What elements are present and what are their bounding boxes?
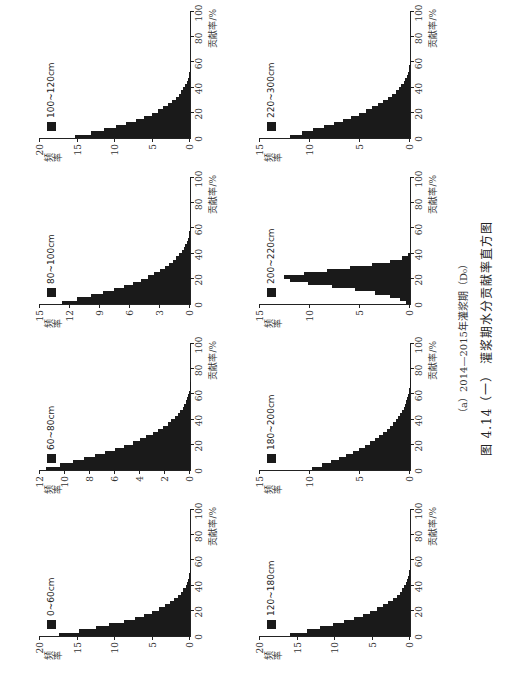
histogram-bar xyxy=(183,588,190,591)
histogram-bar xyxy=(182,250,191,253)
y-tick xyxy=(77,636,78,640)
plot-area: 051015 xyxy=(260,344,411,471)
x-tick-label: 0 xyxy=(194,136,204,142)
y-tick-label: 0 xyxy=(405,310,415,330)
x-tick-label: 60 xyxy=(414,390,424,401)
histogram-bar xyxy=(176,256,190,259)
y-tick-label: 15 xyxy=(73,144,83,164)
x-tick-label: 40 xyxy=(194,83,204,94)
y-tick-label: 12 xyxy=(35,476,45,496)
histogram-bar xyxy=(407,75,410,78)
histogram-bar xyxy=(399,87,411,90)
y-tick xyxy=(189,470,190,474)
y-tick xyxy=(359,138,360,142)
histogram-bar xyxy=(327,269,410,272)
histogram-bar xyxy=(383,604,410,607)
legend-label: 200~220cm xyxy=(266,228,276,284)
histogram-bar xyxy=(312,467,410,470)
y-tick-label: 6 xyxy=(110,476,120,496)
histogram-bar xyxy=(173,260,190,263)
histogram-bar xyxy=(163,426,191,429)
x-tick-label: 20 xyxy=(194,108,204,119)
histogram-bar xyxy=(290,279,410,282)
histogram-bar xyxy=(398,416,410,419)
x-tick-label: 0 xyxy=(194,302,204,308)
histogram-bar xyxy=(284,275,410,278)
y-tick-label: 15 xyxy=(73,642,83,662)
histogram-bar xyxy=(334,122,410,125)
histogram-bar xyxy=(370,441,410,444)
histogram-bar xyxy=(60,463,190,466)
legend-label: 60~80cm xyxy=(46,406,56,450)
histogram-bar xyxy=(363,614,410,617)
y-axis-title: 频率 xyxy=(44,150,62,163)
histogram-bar xyxy=(402,588,410,591)
histogram-bar xyxy=(387,429,410,432)
histogram-bar xyxy=(404,585,410,588)
histogram-bar xyxy=(124,285,190,288)
y-tick-label: 20 xyxy=(255,642,265,662)
histogram-bar xyxy=(189,573,190,576)
y-tick-label: 15 xyxy=(255,310,265,330)
x-axis-title: 贡献率/% xyxy=(206,341,219,380)
histogram-bar xyxy=(165,604,191,607)
histogram-bar xyxy=(148,275,190,278)
histogram-bar xyxy=(359,448,410,451)
legend-swatch-icon xyxy=(47,620,56,629)
figure-page: 频率05101520020406080100贡献率/%0~60cm频率02468… xyxy=(0,0,505,677)
y-tick xyxy=(359,304,360,308)
histogram-bar xyxy=(160,269,190,272)
histogram-bar xyxy=(400,297,410,300)
histogram-bar xyxy=(396,90,411,93)
histogram-bar xyxy=(79,629,190,632)
histogram-bar xyxy=(383,432,410,435)
y-tick xyxy=(39,138,40,142)
legend-label: 0~60cm xyxy=(46,578,56,616)
y-axis-title: 频率 xyxy=(264,648,282,661)
x-tick-label: 20 xyxy=(194,274,204,285)
y-tick-label: 15 xyxy=(255,476,265,496)
y-tick-label: 0 xyxy=(185,476,195,496)
bar-series xyxy=(260,344,410,470)
histogram-bar xyxy=(168,103,190,106)
histogram-bar xyxy=(351,116,410,119)
histogram-bar xyxy=(163,106,190,109)
histogram-bar xyxy=(187,81,190,84)
y-axis-title: 频率 xyxy=(264,150,282,163)
x-tick-label: 60 xyxy=(414,556,424,567)
histogram-bar xyxy=(331,460,410,463)
y-tick xyxy=(152,138,153,142)
y-tick xyxy=(259,138,260,142)
histogram-bar xyxy=(126,122,190,125)
x-axis-title: 贡献率/% xyxy=(426,341,439,380)
legend-label: 180~200cm xyxy=(266,394,276,450)
histogram-bar xyxy=(176,97,190,100)
x-tick-label: 60 xyxy=(414,224,424,235)
x-tick-label: 40 xyxy=(414,415,424,426)
legend: 100~120cm xyxy=(46,62,56,131)
y-tick-label: 10 xyxy=(330,642,340,662)
histogram-bar xyxy=(104,128,190,131)
histogram-bar xyxy=(408,394,410,397)
histogram-bar xyxy=(103,291,190,294)
y-tick xyxy=(259,304,260,308)
x-tick-label: 80 xyxy=(414,198,424,209)
histogram-bar xyxy=(393,598,410,601)
x-tick-label: 60 xyxy=(194,390,204,401)
histogram-bar xyxy=(379,435,410,438)
x-tick-label: 60 xyxy=(414,58,424,69)
histogram-bar xyxy=(105,451,190,454)
histogram-bar xyxy=(400,413,410,416)
histogram-bar xyxy=(95,454,190,457)
histogram-bar xyxy=(388,601,410,604)
histogram-bar xyxy=(322,463,410,466)
plot-area: 03691215 xyxy=(40,178,191,305)
histogram-bar xyxy=(332,285,410,288)
legend-swatch-icon xyxy=(47,454,56,463)
y-tick xyxy=(39,304,40,308)
histogram-bar xyxy=(378,103,410,106)
y-tick xyxy=(39,636,40,640)
histogram-bar xyxy=(184,404,190,407)
histogram-bar xyxy=(405,78,410,81)
x-tick-label: 60 xyxy=(194,224,204,235)
